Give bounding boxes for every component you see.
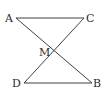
- segment-cd: [24, 18, 84, 83]
- point-label-d: D: [12, 77, 21, 90]
- point-label-b: B: [93, 77, 101, 90]
- geometry-diagram: A C M D B: [0, 0, 108, 91]
- point-label-a: A: [4, 12, 14, 25]
- point-label-m: M: [39, 46, 50, 59]
- point-label-c: C: [86, 12, 94, 25]
